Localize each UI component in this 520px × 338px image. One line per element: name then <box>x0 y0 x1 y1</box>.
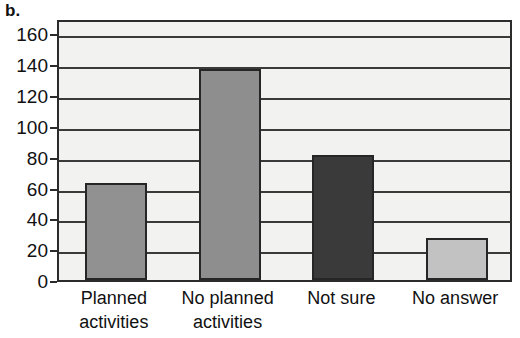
y-axis-tick <box>50 250 57 252</box>
y-axis-tick <box>50 189 57 191</box>
y-axis-label: 20 <box>27 241 48 260</box>
y-axis-tick <box>50 281 57 283</box>
y-axis-tick <box>50 158 57 160</box>
x-axis-labels: Planned activitiesNo planned activitiesN… <box>57 286 512 338</box>
x-axis-category-label: No answer <box>392 286 518 310</box>
x-axis-category-label: Planned activities <box>51 286 177 334</box>
x-axis-category-label: Not sure <box>279 286 405 310</box>
y-axis-tick <box>50 219 57 221</box>
x-axis-category-label: No planned activities <box>165 286 291 334</box>
bar-chart-figure: b. 020406080100120140160 Planned activit… <box>0 0 520 338</box>
y-axis-label: 140 <box>16 56 48 75</box>
y-axis-label: 120 <box>16 87 48 106</box>
y-axis-label: 60 <box>27 180 48 199</box>
y-axis-label: 80 <box>27 149 48 168</box>
y-axis-tick <box>50 65 57 67</box>
y-axis-tick <box>50 96 57 98</box>
y-axis-label: 100 <box>16 118 48 137</box>
y-axis-label: 40 <box>27 210 48 229</box>
y-axis-tick <box>50 34 57 36</box>
y-axis-label: 0 <box>37 272 48 291</box>
y-axis-label: 160 <box>16 25 48 44</box>
y-axis-tick <box>50 127 57 129</box>
